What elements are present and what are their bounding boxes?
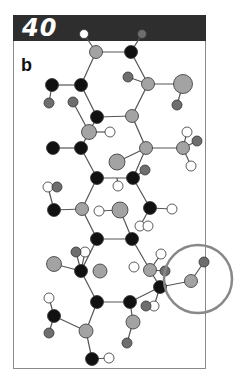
black-atoms [46,46,167,366]
molecular-structure-diagram [0,0,244,379]
hydrogen-atoms [43,30,196,364]
highlight-circle [164,245,232,313]
atoms [43,30,209,366]
gray-atoms [47,46,198,339]
